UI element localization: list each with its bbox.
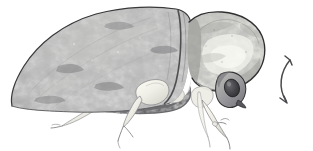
head: [216, 72, 246, 108]
pronotum-puncture: [221, 61, 223, 63]
elytra-puncture: [91, 59, 93, 61]
elytra-puncture: [159, 65, 161, 67]
beetle-illustration-figure: Beetle, lateral view indicates up-and-do…: [0, 0, 313, 151]
pronotum-puncture: [205, 45, 206, 46]
elytra-puncture: [73, 43, 75, 45]
elytra-puncture: [103, 95, 104, 96]
pronotum-puncture: [245, 51, 247, 53]
elytra-puncture: [117, 51, 119, 53]
beetle-illustration-canvas: [0, 0, 313, 151]
pronotum-puncture: [213, 29, 215, 31]
elytra-puncture: [139, 37, 141, 39]
pronotum-puncture: [231, 35, 233, 37]
elytra-puncture: [55, 83, 57, 85]
